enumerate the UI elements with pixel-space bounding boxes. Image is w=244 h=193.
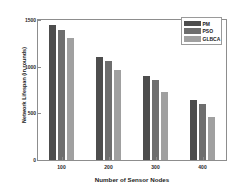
x-axis-tick-label: 400 [191,164,215,170]
y-axis-tick-mark [38,113,41,114]
bar-glbca-200 [114,70,122,160]
legend-item: GLBCA [184,35,220,42]
bar-pm-300 [143,76,151,160]
x-axis-tick-label: 100 [50,164,74,170]
y-axis-title: Network Lifespan (in rounds) [21,20,27,150]
y-axis-tick-label: 1000 [23,64,36,70]
y-axis-tick-label: 1500 [23,17,36,23]
legend-label-glbca: GLBCA [203,36,221,42]
y-axis-tick-mark [38,20,41,21]
bar-chart-figure: Network Lifespan (in rounds) 05001000150… [0,0,244,193]
bar-pso-100 [58,30,66,160]
x-axis-title: Number of Sensor Nodes [37,176,227,183]
y-axis-tick-mark [38,67,41,68]
legend-swatch-glbca [184,36,201,42]
legend-label-pso: PSO [203,28,214,34]
x-axis-tick-mark [62,157,63,160]
legend-item: PSO [184,28,220,35]
x-axis-tick-mark [156,157,157,160]
legend-swatch-pso [184,28,201,34]
x-axis-tick-label: 300 [144,164,168,170]
bar-glbca-300 [161,92,169,160]
bar-pm-400 [190,100,198,160]
x-axis-tick-mark [109,157,110,160]
legend-label-pm: PM [203,21,211,27]
bar-pso-400 [199,104,207,160]
chart-legend: PM PSO GLBCA [181,17,222,45]
bar-glbca-400 [208,117,216,160]
x-axis-tick-label: 200 [97,164,121,170]
y-axis-tick-mark [38,160,41,161]
bar-pm-200 [96,57,104,160]
x-axis-tick-mark [203,157,204,160]
legend-swatch-pm [184,21,201,27]
bar-glbca-100 [67,38,75,160]
bar-pm-100 [49,25,57,160]
y-axis-tick-label: 500 [23,110,36,116]
bar-pso-300 [152,80,160,160]
bar-pso-200 [105,61,113,160]
y-axis-tick-label: 0 [23,157,36,163]
legend-item: PM [184,20,220,27]
